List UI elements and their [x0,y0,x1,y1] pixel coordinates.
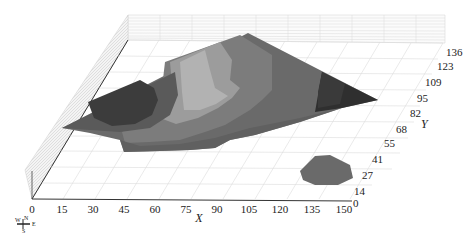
svg-text:S: S [22,228,25,234]
svg-text:136: 136 [446,46,463,58]
svg-text:82: 82 [410,107,421,119]
svg-text:90: 90 [212,203,224,215]
back-wall [128,15,445,43]
compass-icon: N S E W [15,215,36,234]
svg-text:109: 109 [425,76,442,88]
y-tick-labels: 0 14 27 41 55 68 82 95 109 123 136 [353,46,463,209]
svg-text:75: 75 [181,203,193,215]
svg-text:41: 41 [372,153,383,165]
svg-text:N: N [24,215,29,221]
svg-text:45: 45 [119,203,131,215]
y-axis-title: Y [421,117,429,131]
svg-text:95: 95 [417,92,429,104]
svg-text:0: 0 [353,197,359,209]
svg-text:150: 150 [336,203,353,215]
x-axis-line [32,199,352,201]
svg-text:68: 68 [396,123,408,135]
isolated-patch [300,155,353,185]
svg-text:120: 120 [272,203,289,215]
svg-text:55: 55 [384,137,396,149]
svg-text:E: E [32,221,36,227]
contour-surface-chart: 0 15 30 45 60 75 90 105 120 135 150 X 0 … [0,0,473,249]
svg-text:105: 105 [241,203,258,215]
svg-text:W: W [15,217,21,223]
svg-text:123: 123 [437,60,454,72]
svg-text:14: 14 [354,185,366,197]
x-axis-title: X [194,211,203,225]
svg-text:15: 15 [57,203,69,215]
svg-text:60: 60 [150,203,162,215]
svg-text:0: 0 [29,203,35,215]
svg-text:135: 135 [304,203,321,215]
svg-text:27: 27 [362,169,374,181]
svg-text:30: 30 [88,203,100,215]
x-tick-labels: 0 15 30 45 60 75 90 105 120 135 150 [29,203,353,215]
